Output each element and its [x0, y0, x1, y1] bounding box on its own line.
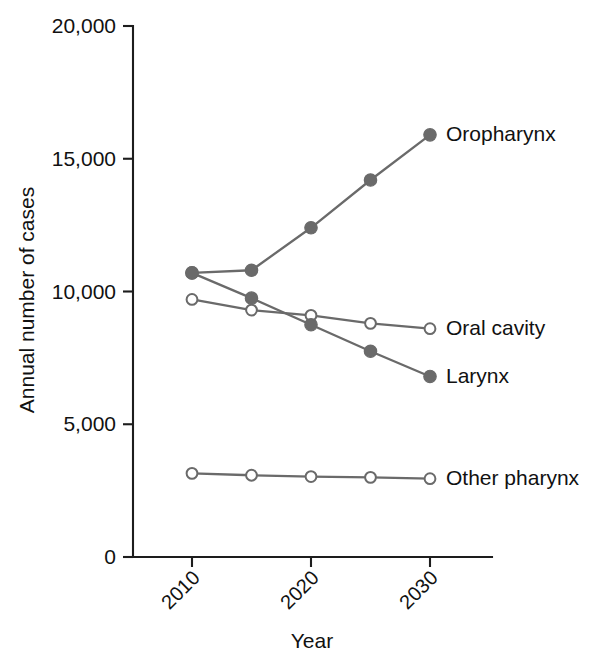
x-tick-label-2030: 2030 [395, 566, 442, 613]
data-point-other-pharynx-2010 [187, 468, 198, 479]
y-tick-label-0: 0 [104, 545, 116, 568]
x-axis-title: Year [291, 629, 333, 652]
data-point-larynx-2010 [186, 267, 198, 279]
data-point-oral-cavity-2030 [425, 323, 436, 334]
series-labels-group: OropharynxOral cavityLarynxOther pharynx [446, 122, 580, 489]
x-axis-ticks [192, 557, 430, 567]
data-point-oral-cavity-2010 [187, 294, 198, 305]
line-chart: 05,00010,00015,00020,000 201020202030 Or… [0, 0, 598, 665]
series-lines-group [192, 135, 430, 479]
data-point-larynx-2025 [364, 345, 376, 357]
series-line-oropharynx [192, 135, 430, 273]
data-point-other-pharynx-2030 [425, 473, 436, 484]
series-markers-group [186, 129, 436, 484]
data-point-larynx-2015 [245, 292, 257, 304]
data-point-larynx-2020 [305, 318, 317, 330]
x-tick-label-2010: 2010 [157, 566, 204, 613]
series-label-other-pharynx: Other pharynx [446, 466, 580, 489]
data-point-oral-cavity-2015 [246, 305, 257, 316]
y-axis-title: Annual number of cases [15, 187, 38, 413]
data-point-oral-cavity-2025 [365, 318, 376, 329]
chart-canvas: 05,00010,00015,00020,000 201020202030 Or… [0, 0, 598, 665]
y-axis-ticks [123, 26, 133, 557]
data-point-oropharynx-2030 [424, 129, 436, 141]
series-label-oropharynx: Oropharynx [446, 122, 556, 145]
data-point-larynx-2030 [424, 370, 436, 382]
series-label-larynx: Larynx [446, 364, 510, 387]
y-tick-label-10000: 10,000 [52, 280, 116, 303]
y-tick-label-20000: 20,000 [52, 14, 116, 37]
x-axis-tick-labels: 201020202030 [157, 566, 442, 613]
x-tick-label-2020: 2020 [276, 566, 323, 613]
y-axis-tick-labels: 05,00010,00015,00020,000 [52, 14, 116, 568]
series-label-oral-cavity: Oral cavity [446, 316, 546, 339]
y-tick-label-15000: 15,000 [52, 147, 116, 170]
data-point-other-pharynx-2025 [365, 472, 376, 483]
data-point-oropharynx-2015 [245, 264, 257, 276]
y-tick-label-5000: 5,000 [63, 412, 116, 435]
data-point-oropharynx-2025 [364, 174, 376, 186]
data-point-oropharynx-2020 [305, 222, 317, 234]
data-point-other-pharynx-2015 [246, 470, 257, 481]
data-point-other-pharynx-2020 [306, 471, 317, 482]
